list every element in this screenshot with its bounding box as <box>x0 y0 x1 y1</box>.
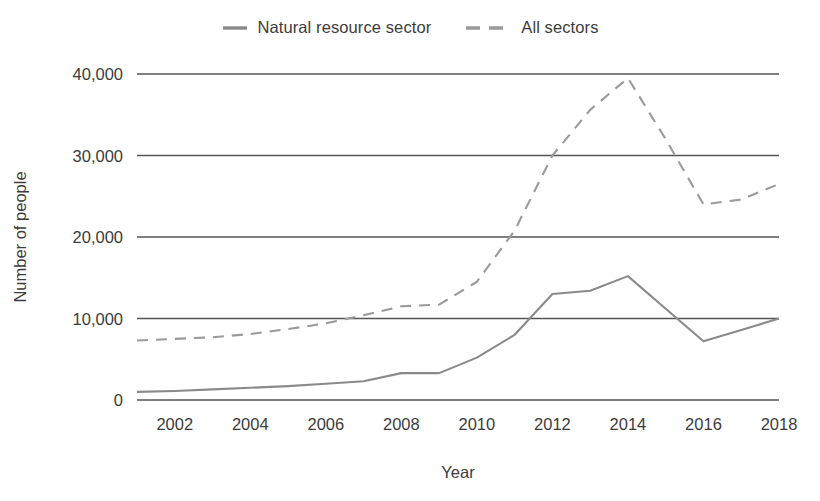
x-tick-label: 2004 <box>232 415 269 433</box>
y-tick-label: 30,000 <box>73 147 123 165</box>
x-tick-label: 2010 <box>459 415 496 433</box>
chart-legend: Natural resource sector All sectors <box>0 18 820 37</box>
chart-figure: Natural resource sector All sectors 010,… <box>0 0 820 501</box>
x-tick-label: 2006 <box>307 415 344 433</box>
x-tick-label: 2012 <box>534 415 571 433</box>
legend-swatch-solid-icon <box>222 22 248 34</box>
x-tick-label: 2018 <box>761 415 798 433</box>
legend-item-all-sectors[interactable]: All sectors <box>465 18 598 37</box>
chart-y-axis-title: Number of people <box>11 171 29 302</box>
legend-swatch-dashed-icon <box>465 22 511 34</box>
legend-item-natural-resource-sector[interactable]: Natural resource sector <box>222 18 432 37</box>
x-tick-label: 2008 <box>383 415 420 433</box>
y-tick-label: 40,000 <box>73 65 123 83</box>
chart-series-lines <box>137 78 779 392</box>
x-tick-label: 2016 <box>685 415 722 433</box>
chart-x-tick-labels: 200220042006200820102012201420162018 <box>156 415 797 433</box>
chart-y-tick-labels: 010,00020,00030,00040,000 <box>73 65 123 409</box>
x-tick-label: 2014 <box>610 415 647 433</box>
y-tick-label: 0 <box>114 391 123 409</box>
chart-plot-area: 010,00020,00030,00040,000 20022004200620… <box>0 0 820 501</box>
x-tick-label: 2002 <box>156 415 193 433</box>
y-tick-label: 20,000 <box>73 228 123 246</box>
chart-x-axis-title: Year <box>441 463 475 481</box>
legend-label-all-sectors: All sectors <box>521 18 598 37</box>
chart-gridlines <box>137 74 779 400</box>
series-line-all-sectors <box>137 78 779 340</box>
y-tick-label: 10,000 <box>73 310 123 328</box>
legend-label-natural-resource-sector: Natural resource sector <box>258 18 432 37</box>
